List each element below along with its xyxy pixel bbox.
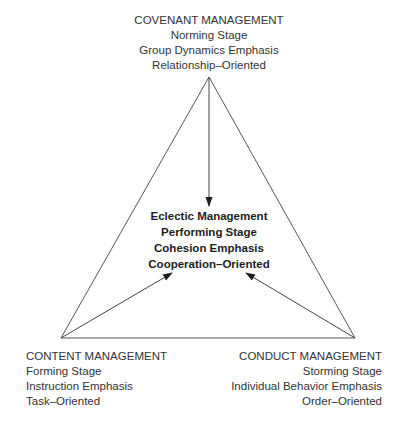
node-emphasis: Individual Behavior Emphasis xyxy=(231,379,382,394)
node-orientation: Relationship–Oriented xyxy=(104,58,314,73)
node-emphasis: Group Dynamics Emphasis xyxy=(104,43,314,58)
conduct-management-node: CONDUCT MANAGEMENT Storming Stage Indivi… xyxy=(231,349,382,409)
node-stage: Storming Stage xyxy=(231,364,382,379)
node-stage: Norming Stage xyxy=(104,28,314,43)
management-triangle-diagram: COVENANT MANAGEMENT Norming Stage Group … xyxy=(0,0,408,427)
node-title: COVENANT MANAGEMENT xyxy=(104,13,314,28)
node-title: Eclectic Management xyxy=(134,208,284,224)
covenant-management-node: COVENANT MANAGEMENT Norming Stage Group … xyxy=(104,13,314,73)
node-title: CONTENT MANAGEMENT xyxy=(26,349,167,364)
arrow-right-to-center xyxy=(246,273,355,338)
content-management-node: CONTENT MANAGEMENT Forming Stage Instruc… xyxy=(26,349,167,409)
node-orientation: Task–Oriented xyxy=(26,394,167,409)
node-orientation: Cooperation–Oriented xyxy=(134,256,284,272)
eclectic-management-node: Eclectic Management Performing Stage Coh… xyxy=(134,208,284,272)
node-emphasis: Cohesion Emphasis xyxy=(134,240,284,256)
node-orientation: Order–Oriented xyxy=(231,394,382,409)
node-title: CONDUCT MANAGEMENT xyxy=(231,349,382,364)
node-stage: Forming Stage xyxy=(26,364,167,379)
arrow-left-to-center xyxy=(61,273,172,338)
node-emphasis: Instruction Emphasis xyxy=(26,379,167,394)
node-stage: Performing Stage xyxy=(134,224,284,240)
